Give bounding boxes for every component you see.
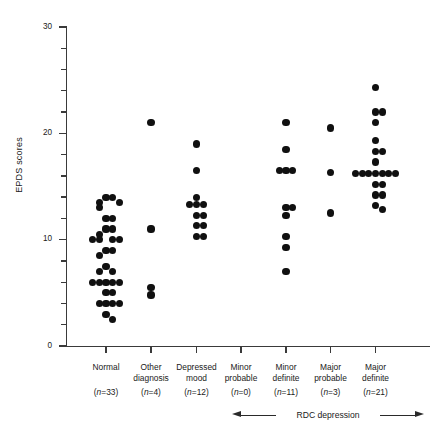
data-point [327, 209, 334, 216]
x-tick-1 [150, 347, 151, 353]
data-point [109, 194, 116, 201]
data-point [276, 167, 283, 174]
data-point [372, 158, 379, 165]
data-point [327, 124, 334, 131]
data-point [193, 222, 200, 229]
data-point [379, 206, 386, 213]
data-point [89, 236, 96, 243]
data-point [327, 169, 334, 176]
data-point [193, 201, 200, 208]
x-tick-5 [330, 347, 331, 353]
data-point [116, 279, 123, 286]
category-label-line1: Normal [93, 362, 120, 372]
rdc-depression-label: RDC depression [282, 409, 374, 422]
data-point [282, 268, 289, 275]
y-tick-minor-14 [61, 196, 67, 197]
x-tick-4 [285, 347, 286, 353]
category-sample-size: (n=21) [343, 387, 409, 398]
category-label-line1: Minor [276, 362, 297, 372]
data-point [109, 225, 116, 232]
data-point [116, 236, 123, 243]
bracket-bar-right [380, 415, 416, 416]
data-point [372, 170, 379, 177]
category-label-line1: Major [320, 362, 341, 372]
data-point [193, 194, 200, 201]
data-point [289, 167, 296, 174]
category-label-line1: Major [365, 362, 386, 372]
x-tick-2 [196, 347, 197, 353]
y-axis-line [66, 27, 67, 347]
y-tick-minor-8 [61, 260, 67, 261]
data-point [109, 215, 116, 222]
y-tick-minor-28 [61, 48, 67, 49]
rdc-depression-bracket: RDC depression [232, 409, 424, 423]
y-tick-minor-2 [61, 324, 67, 325]
category-label-line2: definite [343, 373, 409, 384]
category-label-line1: Other [141, 362, 162, 372]
x-tick-3 [240, 347, 241, 353]
y-tick-minor-22 [61, 111, 67, 112]
data-point [289, 204, 296, 211]
data-point [282, 244, 289, 251]
data-point [372, 119, 379, 126]
data-point [372, 202, 379, 209]
data-point [282, 233, 289, 240]
y-tick-minor-26 [61, 69, 67, 70]
data-point [116, 199, 123, 206]
data-point [200, 212, 207, 219]
epds-scatter-figure: EPDS scores 0102030 Normal (n=33)Otherdi… [0, 0, 439, 436]
data-point [359, 170, 366, 177]
data-point [96, 204, 103, 211]
y-tick-major-20 [59, 133, 67, 134]
data-point [379, 181, 386, 188]
data-point [365, 170, 372, 177]
y-tick-major-10 [59, 239, 67, 240]
data-point [282, 119, 289, 126]
data-point [96, 252, 103, 259]
data-point [109, 289, 116, 296]
y-tick-major-30 [59, 26, 67, 27]
y-axis-title: EPDS scores [14, 125, 24, 205]
y-tick-label-30: 30 [26, 23, 52, 31]
data-point [372, 137, 379, 144]
data-point [379, 108, 386, 115]
data-point [96, 268, 103, 275]
y-tick-label-20: 20 [26, 129, 52, 137]
y-tick-minor-24 [61, 90, 67, 91]
y-tick-minor-6 [61, 282, 67, 283]
data-point [200, 201, 207, 208]
x-tick-6 [375, 347, 376, 353]
x-category-major-definite: Majordefinite(n=21) [343, 362, 409, 399]
data-point [193, 167, 200, 174]
x-tick-0 [105, 347, 106, 353]
data-point [147, 284, 154, 291]
data-point [96, 279, 103, 286]
y-tick-label-0: 0 [26, 342, 52, 350]
data-point [352, 170, 359, 177]
data-point [372, 84, 379, 91]
data-point [282, 146, 289, 153]
data-point [116, 300, 123, 307]
y-tick-minor-12 [61, 218, 67, 219]
data-point [109, 247, 116, 254]
y-tick-major-0 [59, 345, 67, 346]
data-point [186, 201, 193, 208]
data-point [89, 279, 96, 286]
data-point [193, 140, 200, 147]
data-point [96, 236, 103, 243]
data-point [379, 148, 386, 155]
data-point [392, 170, 399, 177]
data-point [379, 191, 386, 198]
y-tick-minor-4 [61, 303, 67, 304]
data-point [200, 233, 207, 240]
arrow-right-icon [415, 411, 424, 417]
bracket-bar-left [240, 415, 276, 416]
data-point [109, 268, 116, 275]
data-point [109, 316, 116, 323]
y-tick-minor-18 [61, 154, 67, 155]
y-tick-label-10: 10 [26, 235, 52, 243]
y-tick-minor-16 [61, 175, 67, 176]
data-point [200, 222, 207, 229]
data-point [147, 119, 154, 126]
data-point [96, 300, 103, 307]
